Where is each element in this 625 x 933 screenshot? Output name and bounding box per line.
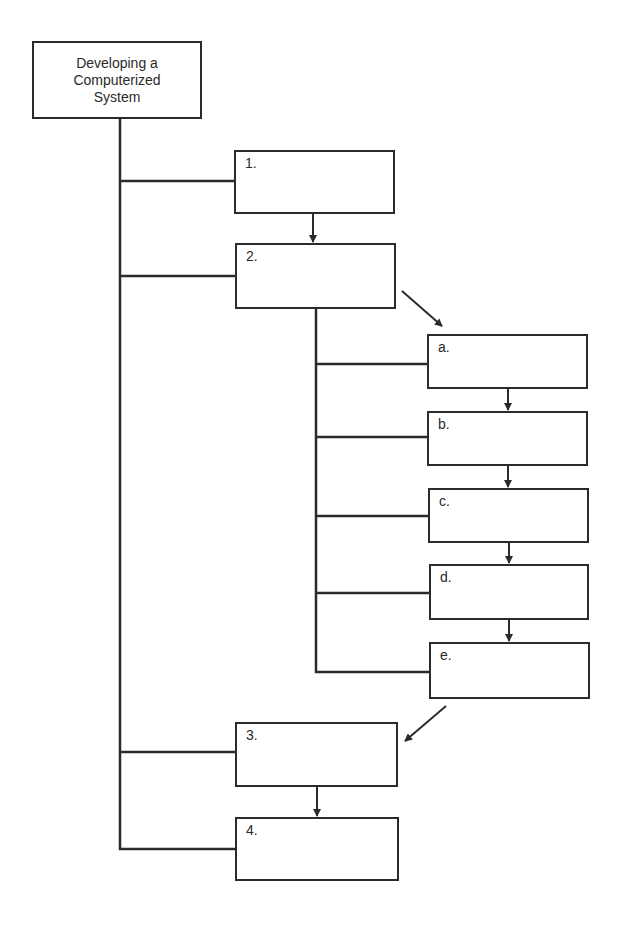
step-label: 2. — [246, 248, 258, 264]
step-label: 4. — [246, 822, 258, 838]
substep-label: d. — [440, 569, 452, 585]
sub-trunk-line — [316, 308, 429, 672]
substep-box-e: e. — [429, 642, 590, 699]
step-box-1: 1. — [234, 150, 395, 214]
substep-box-c: c. — [428, 488, 589, 543]
root-title: Developing a Computerized System — [73, 55, 160, 106]
substep-label: c. — [439, 493, 450, 509]
connector-lines — [0, 0, 625, 933]
substep-label: b. — [438, 416, 450, 432]
step-box-3: 3. — [235, 722, 398, 787]
step-box-4: 4. — [235, 817, 399, 881]
diagram-canvas: Developing a Computerized System 1. 2. 3… — [0, 0, 625, 933]
step-label: 1. — [245, 155, 257, 171]
root-box: Developing a Computerized System — [32, 41, 202, 119]
substep-label: a. — [438, 339, 450, 355]
step-box-2: 2. — [235, 243, 396, 309]
arrow-2-to-a — [402, 291, 442, 326]
substep-box-a: a. — [427, 334, 588, 389]
step-label: 3. — [246, 727, 258, 743]
substep-label: e. — [440, 647, 452, 663]
substep-box-d: d. — [429, 564, 589, 620]
arrow-e-to-3 — [405, 706, 446, 741]
main-trunk-line — [120, 118, 235, 849]
substep-box-b: b. — [427, 411, 588, 466]
